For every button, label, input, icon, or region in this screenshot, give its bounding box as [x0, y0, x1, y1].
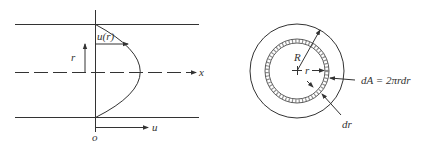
label-u: u	[152, 121, 158, 133]
label-x: x	[198, 66, 204, 78]
dr-arrow-inner	[307, 81, 313, 87]
diagram-canvas: u(r) r x u o R r dA = 2πrdr dr	[0, 0, 424, 146]
label-r: r	[71, 51, 76, 63]
label-origin: o	[92, 131, 98, 143]
dA-arrow	[330, 78, 355, 80]
label-R: R	[293, 51, 301, 63]
cross-section-diagram: R r dA = 2πrdr dr	[250, 24, 411, 130]
label-dA: dA = 2πrdr	[361, 74, 411, 86]
dr-arrow-outer	[322, 94, 341, 115]
label-u-of-r: u(r)	[97, 30, 114, 43]
label-dr: dr	[342, 118, 353, 130]
pipe-flow-diagram: u(r) r x u o	[15, 10, 204, 143]
label-r-inner: r	[305, 64, 310, 76]
